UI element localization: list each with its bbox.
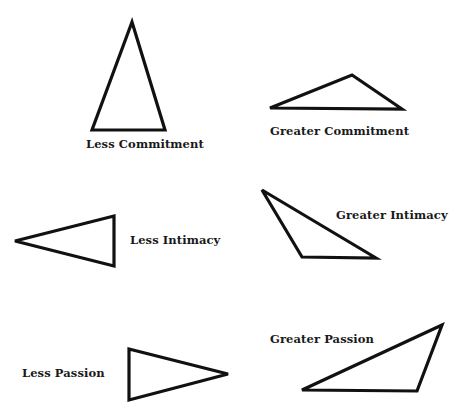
- less-intimacy-label: Less Intimacy: [130, 233, 220, 247]
- less-passion-label: Less Passion: [22, 366, 105, 380]
- less-passion-triangle: [129, 349, 228, 400]
- less-commitment-label: Less Commitment: [86, 137, 204, 151]
- greater-passion-label: Greater Passion: [270, 332, 374, 346]
- greater-commitment-label: Greater Commitment: [270, 124, 409, 138]
- less-intimacy-triangle: [15, 216, 114, 266]
- greater-intimacy-label: Greater Intimacy: [336, 208, 448, 222]
- greater-commitment-triangle: [270, 75, 402, 109]
- less-commitment-triangle: [92, 22, 165, 130]
- greater-intimacy-triangle: [262, 190, 376, 258]
